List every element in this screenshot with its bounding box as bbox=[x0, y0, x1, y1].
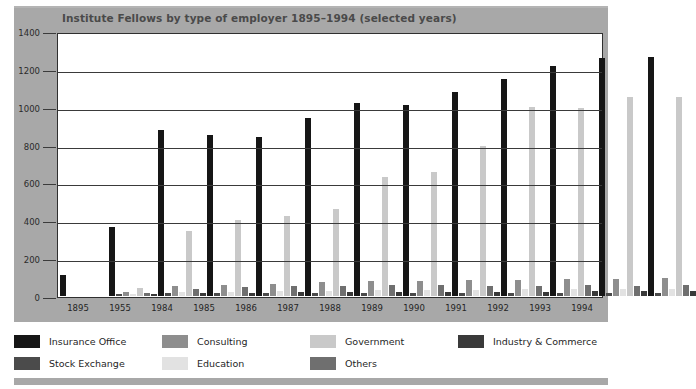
bar bbox=[165, 293, 171, 296]
legend-item-empty bbox=[458, 354, 606, 373]
legend-item[interactable]: Insurance Office bbox=[14, 332, 162, 351]
legend-item[interactable]: Industry & Commerce bbox=[458, 332, 606, 351]
x-axis-label: 1955 bbox=[99, 301, 141, 317]
y-axis-label: 0 bbox=[2, 293, 40, 303]
bar bbox=[620, 289, 626, 297]
y-axis-tick bbox=[43, 33, 56, 34]
y-axis: 0200400600800100012001400 bbox=[0, 33, 57, 298]
bar bbox=[480, 146, 486, 296]
x-axis-label: 1992 bbox=[477, 301, 519, 317]
bar-cluster bbox=[402, 35, 451, 296]
bar-cluster bbox=[304, 35, 353, 296]
bar-cluster bbox=[598, 35, 647, 296]
bar bbox=[193, 289, 199, 297]
y-axis-tick bbox=[43, 222, 56, 223]
y-axis-label: 800 bbox=[2, 142, 40, 152]
bar-cluster bbox=[353, 35, 402, 296]
bar bbox=[158, 130, 164, 296]
bar bbox=[389, 285, 395, 296]
bar bbox=[270, 284, 276, 296]
bar bbox=[592, 291, 598, 296]
bar-cluster bbox=[206, 35, 255, 296]
plot-area bbox=[57, 33, 603, 298]
bar bbox=[130, 294, 136, 296]
bar bbox=[627, 97, 633, 296]
legend-item[interactable]: Consulting bbox=[162, 332, 310, 351]
legend-item[interactable]: Others bbox=[310, 354, 458, 373]
bar bbox=[522, 289, 528, 296]
bar-clusters bbox=[59, 35, 601, 296]
chart-legend: Insurance OfficeConsultingGovernmentIndu… bbox=[14, 330, 608, 376]
bar bbox=[606, 293, 612, 296]
legend-label: Consulting bbox=[197, 336, 248, 347]
bar bbox=[683, 285, 689, 296]
x-axis-label: 1986 bbox=[225, 301, 267, 317]
bar bbox=[123, 292, 129, 296]
bar bbox=[312, 293, 318, 296]
legend-item[interactable]: Education bbox=[162, 354, 310, 373]
y-axis-tick bbox=[43, 109, 56, 110]
bar bbox=[228, 292, 234, 296]
bar bbox=[445, 292, 451, 296]
x-axis: 1895195519841985198619871988198919901991… bbox=[57, 301, 603, 317]
bar bbox=[144, 293, 150, 296]
y-axis-tick bbox=[43, 260, 56, 261]
gridline bbox=[58, 261, 602, 262]
bar-cluster bbox=[549, 35, 598, 296]
y-axis-label: 1400 bbox=[2, 28, 40, 38]
bar bbox=[305, 118, 311, 296]
bottom-accent-bar bbox=[14, 378, 608, 385]
bar bbox=[424, 290, 430, 296]
bar bbox=[494, 292, 500, 296]
gridline bbox=[58, 110, 602, 111]
legend-swatch-icon bbox=[310, 357, 336, 370]
bar bbox=[613, 279, 619, 296]
bar bbox=[263, 293, 269, 296]
bar bbox=[641, 291, 647, 296]
bar-cluster bbox=[255, 35, 304, 296]
bar bbox=[396, 292, 402, 296]
bar bbox=[438, 285, 444, 296]
bar-cluster bbox=[59, 35, 108, 296]
y-axis-label: 400 bbox=[2, 217, 40, 227]
bar bbox=[690, 291, 696, 296]
x-axis-label: 1985 bbox=[183, 301, 225, 317]
bar bbox=[214, 293, 220, 296]
bar bbox=[501, 79, 507, 296]
legend-swatch-icon bbox=[310, 335, 336, 348]
y-axis-label: 1000 bbox=[2, 104, 40, 114]
bar bbox=[508, 293, 514, 296]
y-axis-label: 200 bbox=[2, 255, 40, 265]
legend-item[interactable]: Stock Exchange bbox=[14, 354, 162, 373]
legend-swatch-icon bbox=[162, 335, 188, 348]
legend-label: Industry & Commerce bbox=[493, 336, 597, 347]
bar bbox=[669, 289, 675, 297]
bar-cluster bbox=[647, 35, 696, 296]
bar bbox=[326, 291, 332, 296]
x-axis-label: 1989 bbox=[351, 301, 393, 317]
legend-label: Insurance Office bbox=[49, 336, 126, 347]
legend-item[interactable]: Government bbox=[310, 332, 458, 351]
bar bbox=[291, 286, 297, 296]
bar bbox=[347, 292, 353, 296]
bar bbox=[662, 278, 668, 296]
bar bbox=[578, 108, 584, 296]
bar bbox=[277, 291, 283, 296]
bar bbox=[137, 288, 143, 296]
bar bbox=[116, 294, 122, 296]
bar bbox=[473, 290, 479, 296]
bar bbox=[256, 137, 262, 296]
x-axis-label: 1988 bbox=[309, 301, 351, 317]
bar bbox=[487, 286, 493, 296]
bar bbox=[536, 286, 542, 296]
bar bbox=[235, 220, 241, 296]
y-axis-tick bbox=[43, 298, 56, 299]
bar-cluster bbox=[451, 35, 500, 296]
bar bbox=[340, 286, 346, 296]
bar bbox=[543, 292, 549, 296]
bar bbox=[361, 293, 367, 296]
bar bbox=[417, 281, 423, 296]
bar bbox=[200, 293, 206, 296]
x-axis-label: 1987 bbox=[267, 301, 309, 317]
